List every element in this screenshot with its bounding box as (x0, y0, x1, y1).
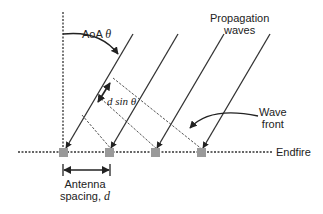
dsin-label: d sin θ (107, 95, 136, 107)
endfire-label: Endfire (276, 146, 311, 158)
propagation-label: Propagation waves (210, 12, 269, 36)
aoa-label: AoA θ (82, 28, 111, 40)
wave-front-pointer (190, 113, 258, 128)
wave-front-label: Wave front (259, 106, 287, 130)
antenna-spacing-label: Antenna spacing, d (60, 178, 110, 202)
propagation-waves (66, 34, 270, 148)
